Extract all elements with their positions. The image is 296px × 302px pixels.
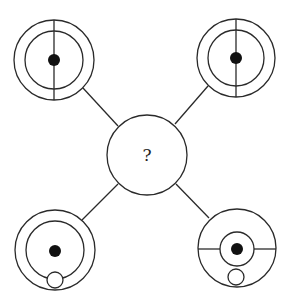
connector-bottom-right: [176, 184, 209, 218]
figure-bottom-left: [15, 210, 95, 290]
figure-top-right: [197, 19, 275, 97]
connector-bottom-left: [82, 184, 118, 220]
center-dot: [48, 54, 60, 66]
center-dot: [231, 243, 243, 255]
diagram-canvas: ?: [0, 0, 296, 302]
connector-top-left: [83, 88, 118, 126]
small-circle: [228, 269, 244, 285]
connector-top-right: [175, 86, 208, 124]
small-circle: [47, 272, 63, 288]
question-mark: ?: [142, 145, 151, 165]
puzzle-diagram: ?: [0, 0, 296, 302]
center-dot: [230, 52, 242, 64]
figure-bottom-right: [198, 209, 276, 287]
center-dot: [49, 245, 61, 257]
figure-top-left: [14, 20, 94, 100]
